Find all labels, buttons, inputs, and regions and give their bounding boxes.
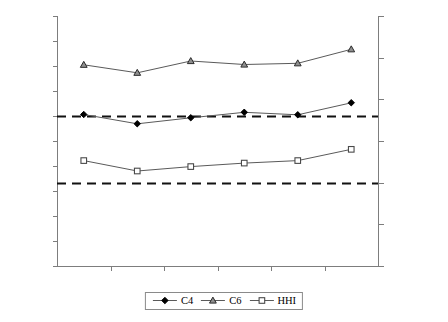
marker-triangle <box>348 46 355 52</box>
marker-triangle <box>80 61 87 67</box>
data-point-marker-square <box>259 298 265 304</box>
legend-label-C6: C6 <box>229 295 241 306</box>
series-C4 <box>81 100 355 127</box>
plot-area <box>0 0 448 322</box>
series-line-HHI <box>84 149 352 171</box>
data-point-marker-square <box>241 160 247 166</box>
legend-symbol-triangle <box>200 295 226 306</box>
legend-item-C4[interactable]: C4 <box>152 295 193 306</box>
marker-square <box>295 158 301 164</box>
marker-diamond <box>348 100 354 106</box>
data-point-marker-square <box>295 158 301 164</box>
series-line-C6 <box>84 49 352 73</box>
series-line-C4 <box>84 103 352 124</box>
marker-diamond <box>81 111 87 117</box>
marker-triangle <box>187 58 194 64</box>
series-HHI <box>81 147 354 174</box>
marker-diamond <box>162 297 168 303</box>
data-point-marker-triangle <box>187 58 194 64</box>
data-point-marker-square <box>134 168 140 174</box>
data-point-marker-diamond <box>348 100 354 106</box>
data-point-marker-square <box>81 158 87 164</box>
marker-square <box>134 168 140 174</box>
marker-diamond <box>134 121 140 127</box>
marker-square <box>241 160 247 166</box>
chart-container: C4C6HHI <box>0 0 448 322</box>
marker-square <box>81 158 87 164</box>
legend-symbol-diamond <box>152 295 178 306</box>
legend-label-C4: C4 <box>181 295 193 306</box>
legend-item-HHI[interactable]: HHI <box>248 295 296 306</box>
marker-diamond <box>241 109 247 115</box>
data-point-marker-diamond <box>81 111 87 117</box>
marker-square <box>188 164 194 170</box>
data-point-marker-diamond <box>162 297 168 303</box>
legend-item-C6[interactable]: C6 <box>200 295 241 306</box>
legend-symbol-square <box>248 295 274 306</box>
data-point-marker-triangle <box>348 46 355 52</box>
chart-legend: C4C6HHI <box>145 292 303 310</box>
data-point-marker-triangle <box>80 61 87 67</box>
series-C6 <box>80 46 354 76</box>
marker-square <box>348 147 354 153</box>
legend-label-HHI: HHI <box>277 295 296 306</box>
data-point-marker-square <box>188 164 194 170</box>
data-point-marker-diamond <box>134 121 140 127</box>
data-point-marker-square <box>348 147 354 153</box>
marker-square <box>259 298 265 304</box>
data-point-marker-diamond <box>241 109 247 115</box>
